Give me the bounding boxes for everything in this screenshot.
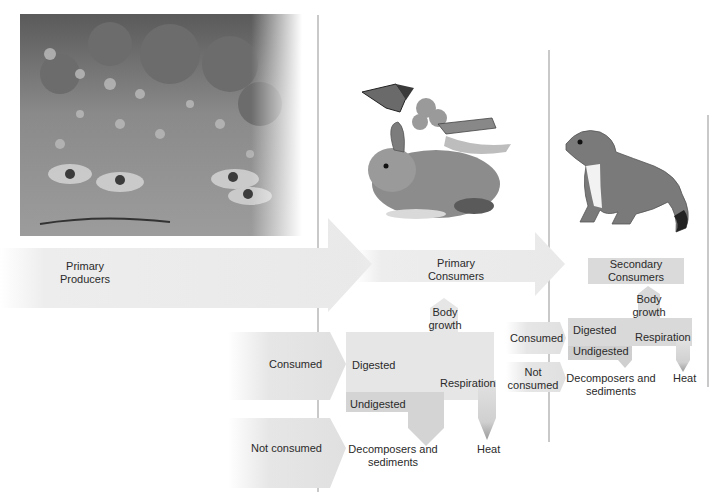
label-undigested-primary: Undigested [350, 398, 406, 411]
label-respiration-primary: Respiration [440, 377, 496, 390]
label-respiration-secondary: Respiration [635, 331, 691, 344]
energy-flow-arrows [0, 0, 726, 502]
label-consumed-primary: Consumed [269, 358, 322, 371]
producers-line2: Producers [50, 273, 120, 286]
label-not-consumed-secondary: Not consumed [506, 366, 560, 392]
label-digested-primary: Digested [352, 359, 395, 372]
label-digested-secondary: Digested [573, 324, 616, 337]
body-growth-secondary-line2: growth [628, 306, 670, 319]
body-growth-line2: growth [424, 319, 466, 332]
producers-line1: Primary [50, 260, 120, 273]
label-heat-secondary: Heat [673, 372, 696, 385]
label-not-consumed-primary: Not consumed [251, 442, 322, 455]
decomposers-secondary-line1: Decomposers and [566, 372, 656, 385]
decomposers-line1: Decomposers and [348, 443, 438, 456]
primary-consumers-line2: Consumers [416, 270, 496, 283]
label-decomposers-secondary: Decomposers and sediments [566, 372, 656, 398]
decomposers-line2: sediments [348, 456, 438, 469]
not-consumed-line2: consumed [506, 379, 560, 392]
secondary-consumers-line2: Consumers [596, 271, 676, 284]
label-decomposers-primary: Decomposers and sediments [348, 443, 438, 469]
label-body-growth-primary: Body growth [424, 306, 466, 332]
secondary-consumers-line1: Secondary [596, 258, 676, 271]
decomposers-secondary-line2: sediments [566, 385, 656, 398]
primary-consumers-line1: Primary [416, 257, 496, 270]
label-body-growth-secondary: Body growth [628, 293, 670, 319]
body-growth-line1: Body [424, 306, 466, 319]
not-consumed-line1: Not [506, 366, 560, 379]
label-consumed-secondary: Consumed [510, 332, 563, 345]
label-primary-producers: Primary Producers [50, 260, 120, 286]
label-heat-primary: Heat [477, 443, 500, 456]
body-growth-secondary-line1: Body [628, 293, 670, 306]
label-secondary-consumers: Secondary Consumers [596, 258, 676, 284]
label-primary-consumers: Primary Consumers [416, 257, 496, 283]
label-undigested-secondary: Undigested [573, 345, 629, 358]
